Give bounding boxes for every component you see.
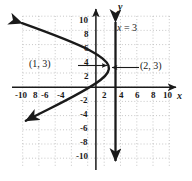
x-tick-2: 2 — [102, 91, 107, 100]
y-tick-4: 4 — [84, 58, 89, 67]
x-tick-6: 6 — [135, 91, 140, 100]
point-label-2-3: (2, 3) — [140, 61, 162, 71]
graph-figure: y x 10 8 6 4 2 -2 -4 -6 -8 -10 -10 8 -6 … — [0, 0, 192, 181]
line-equation-rest: = 3 — [121, 22, 137, 33]
line-equation-label: x = 3 — [117, 23, 137, 33]
point-label-1-3: (1, 3) — [29, 59, 51, 69]
y-tick-neg-10: -10 — [76, 152, 88, 161]
y-tick-10: 10 — [79, 16, 88, 25]
y-tick-8: 8 — [84, 30, 89, 39]
x-tick-8: 8 — [151, 91, 156, 100]
y-tick-6: 6 — [84, 44, 89, 53]
x-tick-4: 4 — [119, 91, 124, 100]
x-tick-neg-8: 8 — [33, 91, 38, 100]
y-tick-neg-8: -8 — [80, 138, 88, 147]
y-tick-neg-2: -2 — [80, 96, 88, 105]
x-tick-neg-4: -4 — [57, 91, 65, 100]
x-axis-label: x — [177, 91, 182, 101]
x-tick-10: 10 — [163, 91, 172, 100]
x-tick-neg-6: -6 — [41, 91, 49, 100]
y-tick-neg-6: -6 — [80, 124, 88, 133]
y-tick-neg-4: -4 — [80, 110, 88, 119]
x-tick-neg-10: -10 — [15, 91, 27, 100]
y-axis-label: y — [118, 2, 122, 12]
y-tick-2: 2 — [84, 72, 89, 81]
